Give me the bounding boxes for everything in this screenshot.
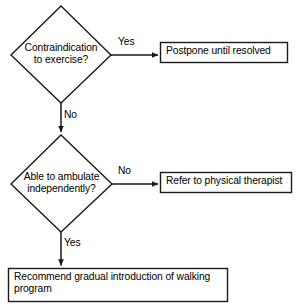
flowchart-canvas: Contraindication to exercise? Postpone u…	[0, 0, 298, 304]
edge-label-no-contraindication: No	[64, 109, 77, 121]
decision-label-contraindication: Contraindication to exercise?	[11, 42, 111, 66]
edge-label-yes-ambulate: Yes	[64, 237, 81, 249]
process-label-recommend: Recommend gradual introduction of walkin…	[14, 271, 226, 295]
edge-label-yes-contraindication: Yes	[118, 36, 135, 48]
process-label-refer: Refer to physical therapist	[166, 175, 292, 187]
process-label-postpone: Postpone until resolved	[166, 45, 286, 57]
edge-label-no-ambulate: No	[118, 165, 131, 177]
decision-label-ambulate: Able to ambulate independently?	[11, 171, 112, 195]
